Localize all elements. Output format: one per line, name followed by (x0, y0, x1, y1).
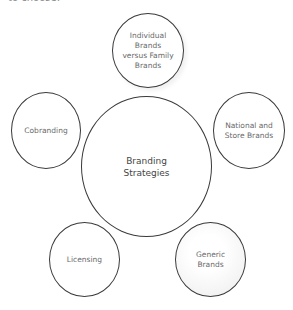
node-label-line: Cobranding (24, 126, 67, 136)
node-cobranding: Cobranding (11, 92, 81, 169)
node-label-line: Brands (196, 260, 225, 270)
node-label-line: Licensing (67, 255, 102, 265)
node-label-line: Individual (122, 31, 173, 41)
node-label-line: Store Brands (225, 131, 273, 141)
center-label-line: Branding (124, 155, 170, 167)
node-label-line: versus Family (122, 51, 173, 61)
node-label-line: National and (225, 121, 273, 131)
node-national-and-store-brands: National and Store Brands (213, 92, 285, 169)
node-label-line: Brands (122, 41, 173, 51)
node-individual-vs-family-brands: Individual Brands versus Family Brands (112, 13, 184, 88)
center-node-branding-strategies: Branding Strategies (81, 96, 212, 237)
center-label-line: Strategies (124, 167, 170, 179)
node-label-line: Generic (196, 250, 225, 260)
node-licensing: Licensing (49, 222, 120, 297)
node-generic-brands: Generic Brands (175, 222, 246, 297)
node-label-line: Brands (122, 61, 173, 71)
intro-text-partial: to choose: (8, 0, 60, 3)
